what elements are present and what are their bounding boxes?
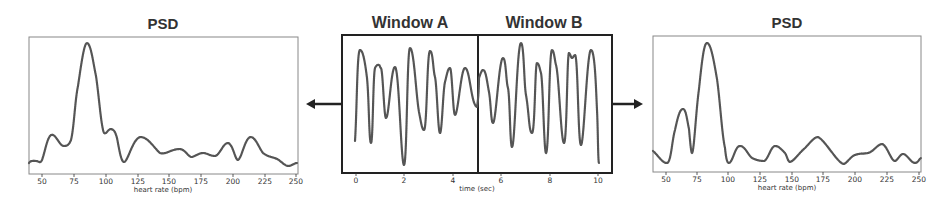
tick-label: 225 (258, 177, 273, 186)
tick-label: 150 (785, 175, 800, 184)
tick-label: 8 (548, 176, 553, 185)
window-a-label: Window A (372, 14, 449, 31)
right-psd-xticks: 50 75 100 125 150 175 200 225 250 (661, 172, 926, 184)
tick-label: 150 (162, 177, 177, 186)
window-b-label: Window B (505, 14, 582, 31)
tick-label: 175 (816, 175, 831, 184)
tick-label: 200 (226, 177, 241, 186)
tick-label: 6 (499, 176, 504, 185)
tick-label: 225 (880, 175, 895, 184)
tick-label: 75 (692, 175, 702, 184)
tick-label: 200 (848, 175, 863, 184)
right-psd-panel: PSD 50 75 100 125 150 175 200 225 250 he… (653, 14, 926, 192)
tick-label: 100 (721, 175, 736, 184)
figure-canvas: PSD 50 75 100 125 150 175 200 225 250 he… (0, 0, 952, 204)
left-psd-title: PSD (148, 15, 179, 32)
left-psd-panel: PSD 50 75 100 125 150 175 200 225 250 he… (29, 15, 303, 194)
tick-label: 75 (69, 177, 79, 186)
tick-label: 125 (753, 175, 768, 184)
tick-label: 4 (451, 176, 456, 185)
tick-label: 250 (289, 177, 304, 186)
tick-label: 2 (402, 176, 407, 185)
tick-label: 175 (194, 177, 209, 186)
right-psd-xlabel: heart rate (bpm) (758, 184, 817, 192)
tick-label: 0 (354, 176, 359, 185)
tick-label: 125 (131, 177, 146, 186)
left-psd-xticks: 50 75 100 125 150 175 200 225 250 (37, 174, 303, 186)
signal-panel: Window A Window B 0 2 4 6 8 10 time (sec… (342, 14, 612, 193)
tick-label: 100 (99, 177, 114, 186)
tick-label: 10 (593, 176, 603, 185)
tick-label: 250 (912, 175, 927, 184)
tick-label: 50 (37, 177, 47, 186)
signal-xticks: 0 2 4 6 8 10 (354, 173, 603, 185)
right-psd-title: PSD (772, 14, 803, 31)
left-arrow-icon (306, 99, 342, 109)
signal-xlabel: time (sec) (459, 185, 495, 193)
tick-label: 50 (661, 175, 671, 184)
left-psd-xlabel: heart rate (bpm) (134, 186, 193, 194)
right-arrow-icon (612, 99, 643, 109)
